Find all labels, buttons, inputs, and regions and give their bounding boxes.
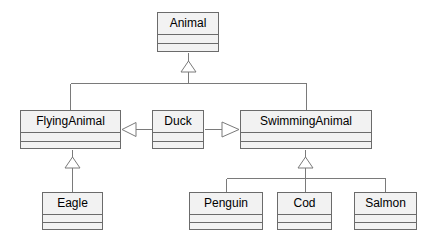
uml-operations-eagle [43,223,102,229]
uml-class-swimminganimal[interactable]: SwimmingAnimal [240,110,372,149]
uml-attributes-flyinganimal [21,133,120,142]
uml-operations-animal [158,44,218,51]
uml-operations-flyinganimal [21,142,120,148]
hollow-triangle-arrowhead-animal [181,61,196,72]
uml-class-eagle[interactable]: Eagle [42,192,103,230]
uml-class-name-duck: Duck [153,111,203,133]
uml-class-diagram: Animal FlyingAnimal Duck SwimmingAnimal … [0,0,438,246]
uml-class-duck[interactable]: Duck [152,110,204,149]
uml-class-name-animal: Animal [158,13,218,35]
uml-class-penguin[interactable]: Penguin [189,192,263,230]
uml-attributes-duck [153,133,203,142]
uml-attributes-penguin [190,215,262,223]
uml-attributes-salmon [355,215,416,223]
uml-operations-salmon [355,223,416,229]
uml-operations-swimminganimal [241,142,371,148]
uml-attributes-cod [278,215,331,223]
uml-operations-duck [153,142,203,148]
hollow-triangle-arrowhead-duck-left [122,123,136,137]
hollow-triangle-arrowhead-duck-right [222,122,239,137]
uml-class-name-penguin: Penguin [190,193,262,215]
uml-attributes-swimminganimal [241,133,371,142]
generalization-fish-to-swramp [227,150,386,193]
uml-class-salmon[interactable]: Salmon [354,192,417,230]
uml-class-animal[interactable]: Animal [157,12,219,52]
uml-class-cod[interactable]: Cod [277,192,332,230]
uml-class-name-salmon: Salmon [355,193,416,215]
generalization-to-animal [71,53,307,111]
uml-class-flyinganimal[interactable]: FlyingAnimal [20,110,121,149]
hollow-triangle-arrowhead-swimminganimal-fish [298,157,313,168]
uml-class-name-flyinganimal: FlyingAnimal [21,111,120,133]
uml-class-name-swimminganimal: SwimmingAnimal [241,111,371,133]
uml-attributes-eagle [43,215,102,223]
uml-operations-penguin [190,223,262,229]
uml-operations-cod [278,223,331,229]
uml-attributes-animal [158,35,218,44]
hollow-triangle-arrowhead-flyinganimal-eagle [65,157,80,168]
uml-class-name-eagle: Eagle [43,193,102,215]
uml-class-name-cod: Cod [278,193,331,215]
